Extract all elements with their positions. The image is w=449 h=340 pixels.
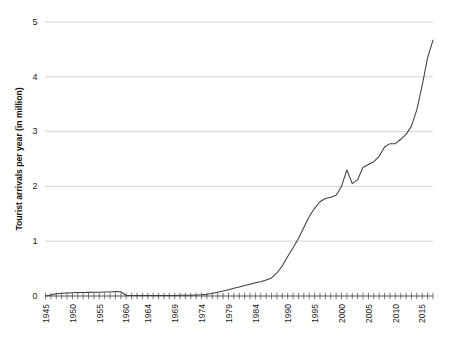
x-tick-label-2005: 2005 [364, 304, 374, 323]
y-axis-title-label: Tourist arrivals per year (in million) [14, 87, 24, 230]
x-tick-label-1969: 1969 [170, 304, 180, 323]
x-tick-label-1950: 1950 [68, 304, 78, 323]
x-tick-label-1974: 1974 [197, 304, 207, 323]
x-tick-label-1990: 1990 [283, 304, 293, 323]
x-tick-label-1995: 1995 [310, 304, 320, 323]
y-tick-label-2: 2 [32, 181, 37, 191]
x-tick-label-1960: 1960 [121, 304, 131, 323]
y-tick-label-0: 0 [32, 291, 37, 301]
chart-figure: 012345 194519501955196019641969197419791… [0, 0, 449, 340]
x-tick-label-1979: 1979 [224, 304, 234, 323]
y-tick-label-5: 5 [32, 17, 37, 27]
line-chart: 012345 194519501955196019641969197419791… [0, 0, 449, 340]
x-tick-label-2010: 2010 [391, 304, 401, 323]
x-tick-label-1955: 1955 [95, 304, 105, 323]
plot-series [46, 40, 434, 296]
x-tick-label-1945: 1945 [41, 304, 51, 323]
x-axis-labels: 1945195019551960196419691974197919841990… [41, 304, 428, 323]
y-tick-label-4: 4 [32, 72, 37, 82]
gridlines [46, 22, 434, 296]
x-tick-label-1984: 1984 [251, 304, 261, 323]
x-tick-label-2015: 2015 [417, 304, 427, 323]
y-axis-title: Tourist arrivals per year (in million) [14, 87, 24, 230]
x-tick-label-1964: 1964 [143, 304, 153, 323]
x-tick-label-2000: 2000 [337, 304, 347, 323]
y-tick-label-3: 3 [32, 126, 37, 136]
series-line-0 [46, 40, 434, 296]
y-tick-label-1: 1 [32, 236, 37, 246]
y-axis-ticks: 012345 [32, 17, 37, 301]
